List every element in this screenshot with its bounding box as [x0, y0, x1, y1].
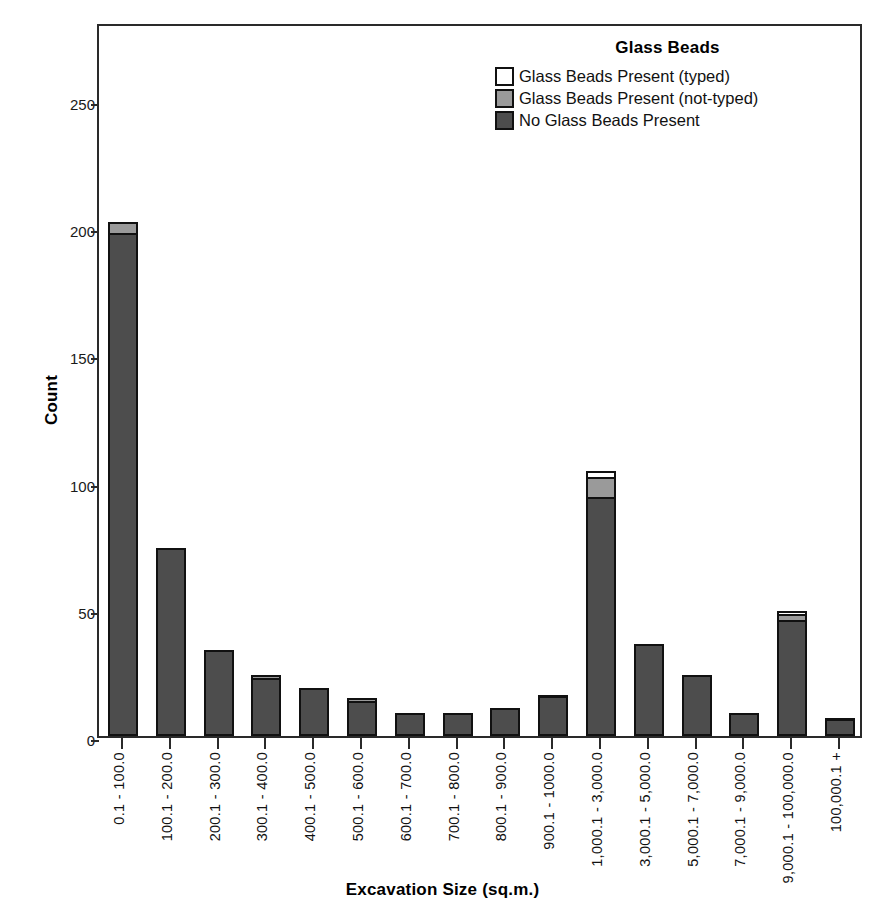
bar-segment-divider [347, 701, 377, 703]
stacked-bar[interactable] [204, 650, 234, 736]
stacked-bar[interactable] [490, 708, 520, 736]
x-axis-tick-mark [360, 738, 362, 749]
stacked-bar[interactable] [825, 718, 855, 736]
x-axis-tick-mark [599, 738, 601, 749]
bar-slot [204, 26, 234, 736]
bar-segment-divider [586, 477, 616, 479]
legend-item-label: Glass Beads Present (not-typed) [519, 89, 758, 107]
stacked-bar[interactable] [108, 222, 138, 736]
stacked-bar[interactable] [682, 675, 712, 736]
bar-segment-divider [251, 678, 281, 680]
x-axis-tick-mark [647, 738, 649, 749]
bar-segment [347, 703, 377, 736]
x-axis-tick-mark [408, 738, 410, 749]
bar-segment-divider [777, 614, 807, 616]
stacked-bar[interactable] [395, 713, 425, 736]
x-axis-tick-label: 600.1 - 700.0 [399, 752, 414, 841]
y-axis-tick-label: 200 [55, 224, 95, 239]
stacked-bar[interactable] [156, 548, 186, 736]
stacked-bar[interactable] [347, 698, 377, 736]
x-axis-tick-label: 400.1 - 500.0 [303, 752, 318, 841]
stacked-bar[interactable] [443, 713, 473, 736]
stacked-bar[interactable] [538, 695, 568, 736]
bar-slot [347, 26, 377, 736]
bar-segment [634, 644, 664, 736]
y-axis-tick-mark [91, 358, 99, 360]
bar-slot [443, 26, 473, 736]
x-axis-tick-mark [121, 738, 123, 749]
chart-figure: Count Excavation Size (sq.m.) 0501001502… [0, 0, 885, 916]
x-axis-tick-label: 100,000.1 + [829, 752, 844, 832]
y-axis-tick-label: 100 [55, 478, 95, 493]
bar-segment [682, 675, 712, 736]
x-axis-tick-label: 700.1 - 800.0 [447, 752, 462, 841]
legend-swatch-icon [495, 89, 514, 108]
bar-segment-divider [777, 620, 807, 622]
x-axis-tick-mark [551, 738, 553, 749]
x-axis-tick-mark [790, 738, 792, 749]
bar-segment [108, 235, 138, 736]
y-axis-tick-mark [91, 740, 99, 742]
stacked-bar[interactable] [777, 611, 807, 736]
bar-segment-divider [586, 497, 616, 499]
bar-slot [108, 26, 138, 736]
legend-swatch-icon [495, 67, 514, 86]
x-axis-tick-mark [695, 738, 697, 749]
bar-segment [490, 708, 520, 736]
legend-entries: Glass Beads Present (typed)Glass Beads P… [481, 67, 854, 130]
stacked-bar[interactable] [586, 471, 616, 736]
x-axis-tick-label: 800.1 - 900.0 [494, 752, 509, 841]
stacked-bar[interactable] [729, 713, 759, 736]
x-axis-tick-mark [312, 738, 314, 749]
legend-item[interactable]: No Glass Beads Present [495, 111, 854, 130]
x-axis-tick-mark [169, 738, 171, 749]
stacked-bar[interactable] [299, 688, 329, 736]
bar-segment-divider [825, 719, 855, 721]
legend-item[interactable]: Glass Beads Present (typed) [495, 67, 854, 86]
y-axis-tick-mark [91, 486, 99, 488]
bar-slot [299, 26, 329, 736]
stacked-bar[interactable] [634, 644, 664, 736]
y-axis-tick-label: 250 [55, 97, 95, 112]
x-axis-tick-label: 5,000.1 - 7,000.0 [686, 752, 701, 867]
x-axis-tick-mark [456, 738, 458, 749]
x-axis-tick-label: 900.1 - 1000.0 [542, 752, 557, 850]
x-axis-tick-mark [503, 738, 505, 749]
bar-segment [825, 721, 855, 736]
x-axis-tick-label: 500.1 - 600.0 [351, 752, 366, 841]
x-axis-tick-label: 300.1 - 400.0 [255, 752, 270, 841]
bar-slot [156, 26, 186, 736]
bar-segment [156, 548, 186, 736]
x-axis-tick-label: 9,000.1 - 100,000.0 [781, 752, 796, 883]
bar-segment [729, 713, 759, 736]
y-axis-tick-mark [91, 104, 99, 106]
y-axis-tick-label: 50 [55, 605, 95, 620]
x-axis-tick-mark [264, 738, 266, 749]
legend-swatch-icon [495, 111, 514, 130]
x-axis-title: Excavation Size (sq.m.) [0, 880, 885, 900]
y-axis-tick-mark [91, 613, 99, 615]
bar-slot [251, 26, 281, 736]
y-axis-tick-label: 150 [55, 351, 95, 366]
bar-segment-divider [108, 233, 138, 235]
x-axis-tick-label: 3,000.1 - 5,000.0 [638, 752, 653, 867]
x-axis-tick-mark [838, 738, 840, 749]
bar-segment [443, 713, 473, 736]
x-axis-tick-label: 100.1 - 200.0 [160, 752, 175, 841]
bar-segment [251, 680, 281, 736]
legend-title: Glass Beads [481, 38, 854, 58]
x-axis-tick-label: 7,000.1 - 9,000.0 [733, 752, 748, 867]
bar-segment [586, 479, 616, 499]
x-axis-tick-label: 1,000.1 - 3,000.0 [590, 752, 605, 867]
stacked-bar[interactable] [251, 675, 281, 736]
x-axis-tick-mark [217, 738, 219, 749]
legend-item[interactable]: Glass Beads Present (not-typed) [495, 89, 854, 108]
bar-segment [586, 499, 616, 736]
x-axis-tick-mark [742, 738, 744, 749]
bar-segment [538, 698, 568, 736]
bar-segment [777, 622, 807, 736]
x-axis-tick-label: 200.1 - 300.0 [208, 752, 223, 841]
x-axis-tick-label: 0.1 - 100.0 [112, 752, 127, 825]
legend: Glass Beads Glass Beads Present (typed)G… [475, 26, 860, 141]
bar-segment [299, 688, 329, 736]
